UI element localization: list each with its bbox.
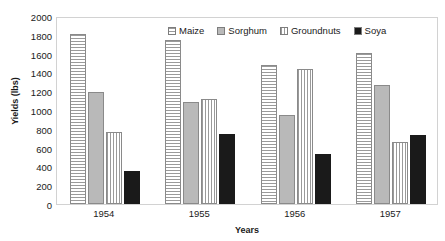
bar-chart: Yields (lbs) 020040060080010001200140016… — [0, 0, 445, 241]
y-axis-tick-labels: 0200400600800100012001400160018002000 — [20, 17, 52, 205]
x-axis-tick: 1954 — [93, 208, 114, 219]
y-axis-tick: 600 — [20, 143, 52, 154]
bar-sorghum-1955 — [183, 102, 199, 204]
bar-sorghum-1954 — [88, 92, 104, 204]
bar-maize-1954 — [70, 34, 86, 204]
bar-group-1956 — [248, 18, 344, 204]
x-axis-tick-labels: 1954195519561957 — [56, 208, 438, 222]
legend-label: Groundnuts — [291, 26, 341, 36]
legend-item-maize[interactable]: Maize — [168, 26, 204, 36]
chart-legend: MaizeSorghumGroundnutsSoya — [168, 26, 386, 36]
legend-item-soya[interactable]: Soya — [354, 26, 387, 36]
x-axis-tick: 1957 — [380, 208, 401, 219]
bar-maize-1957 — [356, 53, 372, 204]
y-axis-title: Yields (lbs) — [10, 56, 20, 146]
legend-label: Soya — [365, 26, 387, 36]
x-axis-tick: 1956 — [284, 208, 305, 219]
bar-soya-1957 — [410, 135, 426, 204]
bar-groundnuts-1954 — [106, 132, 122, 204]
y-axis-tick: 1400 — [20, 68, 52, 79]
bar-soya-1956 — [315, 154, 331, 204]
x-axis-title: Years — [56, 225, 438, 235]
y-axis-tick: 400 — [20, 162, 52, 173]
y-axis-tick: 1800 — [20, 30, 52, 41]
bar-groundnuts-1956 — [297, 69, 313, 204]
bar-maize-1955 — [165, 40, 181, 204]
legend-item-groundnuts[interactable]: Groundnuts — [280, 26, 341, 36]
y-axis-tick: 200 — [20, 181, 52, 192]
plot-area — [56, 17, 438, 205]
legend-swatch-maize-icon — [168, 27, 176, 35]
y-axis-tick: 0 — [20, 200, 52, 211]
legend-label: Sorghum — [228, 26, 267, 36]
legend-swatch-soya-icon — [354, 27, 362, 35]
legend-swatch-sorghum-icon — [217, 27, 225, 35]
y-axis-tick: 1600 — [20, 49, 52, 60]
x-axis-tick: 1955 — [189, 208, 210, 219]
plot-inner — [57, 18, 437, 204]
bar-groundnuts-1955 — [201, 99, 217, 204]
bar-sorghum-1956 — [279, 115, 295, 204]
bar-groundnuts-1957 — [392, 142, 408, 204]
bar-soya-1955 — [219, 134, 235, 205]
y-axis-tick: 1000 — [20, 106, 52, 117]
y-axis-tick: 2000 — [20, 12, 52, 23]
bar-group-1957 — [344, 18, 440, 204]
bar-sorghum-1957 — [374, 85, 390, 204]
legend-label: Maize — [179, 26, 204, 36]
legend-swatch-groundnuts-icon — [280, 27, 288, 35]
bar-group-1954 — [57, 18, 153, 204]
y-axis-tick: 800 — [20, 124, 52, 135]
y-axis-tick: 1200 — [20, 87, 52, 98]
bar-maize-1956 — [261, 65, 277, 204]
bar-soya-1954 — [124, 171, 140, 204]
legend-item-sorghum[interactable]: Sorghum — [217, 26, 267, 36]
bar-group-1955 — [153, 18, 249, 204]
